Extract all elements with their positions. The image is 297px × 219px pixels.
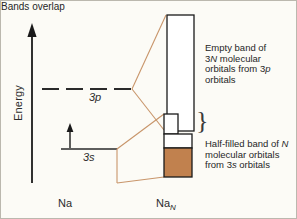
band-description-3p: Empty band of3N molecularorbitals from 3… bbox=[205, 43, 297, 85]
connector-3p-top bbox=[132, 15, 166, 89]
band-rect-overlap bbox=[164, 114, 178, 134]
overlap-brace-icon: } bbox=[196, 108, 208, 134]
band-rect-3s-empty-half bbox=[164, 134, 192, 148]
x-label-solid-subscript: N bbox=[170, 203, 176, 212]
connector-3p-bottom bbox=[132, 89, 164, 130]
x-label-atom: Na bbox=[58, 197, 72, 209]
energy-axis-arrowhead bbox=[27, 23, 36, 37]
level-label-3s: 3s bbox=[83, 151, 95, 163]
x-label-solid: NaN bbox=[156, 197, 176, 212]
energy-axis-label: Energy bbox=[12, 72, 24, 134]
connector-3s-bottom bbox=[117, 177, 164, 183]
band-rect-3s-filled-half bbox=[164, 148, 192, 177]
electron-up-arrow-icon bbox=[67, 123, 74, 148]
correlation-lines bbox=[117, 15, 166, 183]
x-label-solid-base: Na bbox=[156, 197, 170, 209]
band-theory-diagram: Energy 3p 3s Na NaN Empty band of3N mole… bbox=[0, 0, 297, 219]
band-description-3s: Half-filled band of Nmolecular orbitalsf… bbox=[205, 139, 297, 171]
energy-axis bbox=[27, 23, 36, 183]
level-label-3p: 3p bbox=[89, 91, 101, 103]
diagram-canvas bbox=[1, 1, 297, 219]
connector-3s-top bbox=[117, 114, 164, 149]
